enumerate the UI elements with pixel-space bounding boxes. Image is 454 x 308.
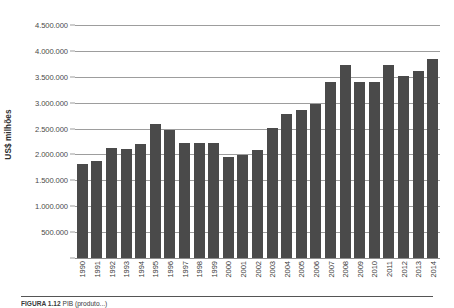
bar bbox=[91, 161, 102, 258]
x-axis-tick-label: 2006 bbox=[311, 261, 320, 278]
x-axis-tick: 1998 bbox=[194, 259, 205, 293]
y-axis-tick-label: 1.000.000 bbox=[35, 202, 68, 211]
bar bbox=[135, 144, 146, 258]
x-axis-tick-label: 1996 bbox=[165, 261, 174, 278]
x-axis-tick-label: 2012 bbox=[399, 261, 408, 278]
x-axis-tick: 2001 bbox=[237, 259, 248, 293]
y-axis-tick-label: 3.000.000 bbox=[35, 98, 68, 107]
caption-text: PIB (produto...) bbox=[61, 300, 108, 307]
y-axis-tick-label: 2.500.000 bbox=[35, 124, 68, 133]
bar bbox=[252, 150, 263, 258]
y-axis-tick-label: 4.500.000 bbox=[35, 21, 68, 30]
bar bbox=[340, 65, 351, 258]
x-axis-tick-label: 2002 bbox=[253, 261, 262, 278]
x-axis-tick-label: 2000 bbox=[224, 261, 233, 278]
x-axis-tick: 1992 bbox=[106, 259, 117, 293]
x-axis-tick-label: 1991 bbox=[92, 261, 101, 278]
bar bbox=[121, 149, 132, 258]
x-axis-tick: 2004 bbox=[281, 259, 292, 293]
x-axis-tick: 1993 bbox=[121, 259, 132, 293]
x-axis-tick: 2005 bbox=[296, 259, 307, 293]
bar bbox=[194, 143, 205, 258]
bar bbox=[369, 82, 380, 258]
y-axis-ticks: 4.500.0004.000.0003.500.0003.000.0002.50… bbox=[16, 0, 75, 308]
x-axis-tick: 2011 bbox=[383, 259, 394, 293]
x-axis-tick-label: 1994 bbox=[136, 261, 145, 278]
x-axis-tick: 2000 bbox=[223, 259, 234, 293]
bar bbox=[164, 130, 175, 258]
y-axis-tick-label: 3.500.000 bbox=[35, 72, 68, 81]
bar bbox=[413, 71, 424, 258]
x-axis-tick: 2006 bbox=[310, 259, 321, 293]
plot-area bbox=[75, 25, 440, 258]
x-axis-tick: 1996 bbox=[164, 259, 175, 293]
x-axis-tick: 1991 bbox=[91, 259, 102, 293]
gridline bbox=[75, 51, 440, 52]
gridline bbox=[75, 25, 440, 26]
bar bbox=[354, 82, 365, 258]
x-axis-tick-label: 2004 bbox=[282, 261, 291, 278]
x-axis-tick: 2009 bbox=[354, 259, 365, 293]
y-axis-tick-label: 2.000.000 bbox=[35, 150, 68, 159]
figure-caption: FIGURA 1.12 PIB (produto...) bbox=[21, 299, 441, 308]
x-axis-tick-label: 1998 bbox=[195, 261, 204, 278]
x-axis-tick-label: 1992 bbox=[107, 261, 116, 278]
x-axis-tick: 2002 bbox=[252, 259, 263, 293]
x-axis-tick-label: 2014 bbox=[428, 261, 437, 278]
x-axis-tick-label: 1997 bbox=[180, 261, 189, 278]
bar bbox=[150, 124, 161, 258]
bar bbox=[398, 76, 409, 258]
x-axis-tick: 2013 bbox=[413, 259, 424, 293]
x-axis-tick: 1999 bbox=[208, 259, 219, 293]
y-axis-tick-label: 500.000 bbox=[41, 228, 68, 237]
x-axis-tick: 1994 bbox=[135, 259, 146, 293]
x-axis-tick-label: 2003 bbox=[268, 261, 277, 278]
x-axis-ticks: 1990199119921993199419951996199719981999… bbox=[75, 259, 440, 293]
x-axis-tick: 2008 bbox=[340, 259, 351, 293]
x-axis-tick-label: 2010 bbox=[370, 261, 379, 278]
x-axis-tick: 1997 bbox=[179, 259, 190, 293]
bar bbox=[296, 110, 307, 258]
x-axis-tick-label: 2001 bbox=[238, 261, 247, 278]
x-axis-tick-label: 2013 bbox=[414, 261, 423, 278]
caption-divider bbox=[21, 296, 433, 297]
bar bbox=[208, 143, 219, 258]
x-axis-tick-label: 2008 bbox=[341, 261, 350, 278]
bar bbox=[77, 164, 88, 258]
y-axis-tick-label: 4.000.000 bbox=[35, 46, 68, 55]
x-axis-tick: 2010 bbox=[369, 259, 380, 293]
figure-bar-chart: US$ milhões 4.500.0004.000.0003.500.0003… bbox=[0, 0, 454, 308]
x-axis-tick-label: 1995 bbox=[151, 261, 160, 278]
bar bbox=[281, 114, 292, 258]
bar bbox=[310, 104, 321, 258]
x-axis-tick-label: 2005 bbox=[297, 261, 306, 278]
bar bbox=[237, 155, 248, 258]
bar bbox=[106, 148, 117, 258]
x-axis-tick: 2012 bbox=[398, 259, 409, 293]
x-axis-tick: 2014 bbox=[427, 259, 438, 293]
x-axis-tick-label: 2007 bbox=[326, 261, 335, 278]
bar bbox=[267, 128, 278, 258]
x-axis-tick-label: 2011 bbox=[384, 261, 393, 277]
y-axis-title-label: US$ milhões bbox=[4, 109, 13, 159]
x-axis-tick-label: 1990 bbox=[78, 261, 87, 278]
y-axis-tick-label: 1.500.000 bbox=[35, 176, 68, 185]
bar bbox=[179, 143, 190, 258]
bar bbox=[325, 82, 336, 258]
x-axis-tick-label: 1993 bbox=[122, 261, 131, 278]
x-axis-tick: 1990 bbox=[77, 259, 88, 293]
x-axis-tick: 2007 bbox=[325, 259, 336, 293]
x-axis-tick-label: 2009 bbox=[355, 261, 364, 278]
y-axis-title: US$ milhões bbox=[0, 0, 16, 268]
caption-lead: FIGURA 1.12 bbox=[21, 300, 61, 307]
x-axis-tick-label: 1999 bbox=[209, 261, 218, 278]
bar bbox=[223, 157, 234, 258]
x-axis-tick: 2003 bbox=[267, 259, 278, 293]
bar bbox=[383, 65, 394, 258]
bar bbox=[427, 59, 438, 258]
x-axis-tick: 1995 bbox=[150, 259, 161, 293]
